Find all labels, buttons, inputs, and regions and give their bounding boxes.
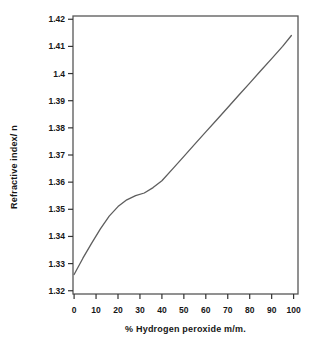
data-curve xyxy=(74,36,291,275)
y-tick-label: 1.36 xyxy=(48,177,65,187)
x-tick-label: 60 xyxy=(201,305,211,315)
y-tick-label: 1.4 xyxy=(53,69,65,79)
refractive-index-chart: 1.321.331.341.351.361.371.381.391.41.411… xyxy=(0,0,319,348)
x-tick-label: 10 xyxy=(91,305,101,315)
y-tick-label: 1.33 xyxy=(48,259,65,269)
x-tick-label: 100 xyxy=(287,305,301,315)
x-tick-label: 90 xyxy=(267,305,277,315)
plot-canvas: 1.321.331.341.351.361.371.381.391.41.411… xyxy=(0,0,319,348)
y-tick-label: 1.37 xyxy=(48,150,65,160)
x-tick-label: 50 xyxy=(179,305,189,315)
x-axis-label: % Hydrogen peroxide m/m. xyxy=(73,324,298,334)
y-axis-label: Refractive index/ n xyxy=(9,102,21,232)
y-tick-label: 1.35 xyxy=(48,204,65,214)
x-tick-label: 0 xyxy=(72,305,77,315)
x-tick-label: 70 xyxy=(223,305,233,315)
y-tick-label: 1.32 xyxy=(48,286,65,296)
y-tick-label: 1.38 xyxy=(48,123,65,133)
y-tick-label: 1.42 xyxy=(48,14,65,24)
y-tick-label: 1.34 xyxy=(48,231,65,241)
y-tick-label: 1.41 xyxy=(48,41,65,51)
x-tick-label: 80 xyxy=(245,305,255,315)
x-tick-label: 20 xyxy=(113,305,123,315)
x-tick-label: 40 xyxy=(157,305,167,315)
y-tick-label: 1.39 xyxy=(48,96,65,106)
x-tick-label: 30 xyxy=(135,305,145,315)
